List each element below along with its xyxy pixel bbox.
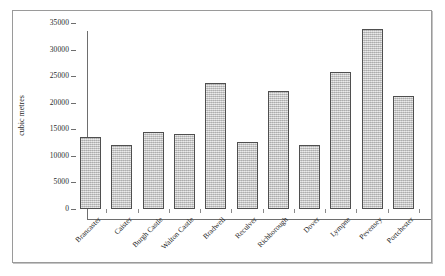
bar-richborough xyxy=(268,91,289,209)
x-axis-tick xyxy=(169,209,170,213)
bar-pevensey xyxy=(362,29,383,209)
bar-portchester xyxy=(393,96,414,209)
x-axis-tick xyxy=(325,209,326,213)
y-axis-tick-label: 15000 xyxy=(25,125,69,133)
x-axis-tick xyxy=(263,209,264,213)
bar-walton-castle xyxy=(174,134,195,209)
x-axis-label: Dover xyxy=(301,215,321,235)
y-axis-tick xyxy=(71,129,76,130)
y-axis-tick xyxy=(71,50,76,51)
y-axis-tick-label: 30000 xyxy=(25,46,69,54)
y-axis-tick-label: 10000 xyxy=(25,152,69,160)
bar-dover xyxy=(299,145,320,209)
y-axis-tick-label-wrap: 20000 xyxy=(23,99,69,107)
figure-frame: cubic metres 350003000025000200001500010… xyxy=(12,10,432,263)
y-axis-tick-label-wrap: 15000 xyxy=(23,125,69,133)
x-axis-label: Walton Castle xyxy=(160,215,196,251)
y-axis-tick xyxy=(71,156,76,157)
x-axis-tick xyxy=(356,209,357,213)
x-axis-tick xyxy=(106,209,107,213)
y-axis-title: cubic metres xyxy=(17,76,26,156)
y-axis-tick-label-wrap: 35000 xyxy=(23,19,69,27)
y-axis-tick-label: 35000 xyxy=(25,19,69,27)
x-axis-tick xyxy=(138,209,139,213)
bar-caister xyxy=(111,145,132,209)
y-axis-tick-label-wrap: 0 xyxy=(23,205,69,213)
y-axis-tick xyxy=(71,209,76,210)
y-axis-tick xyxy=(71,103,76,104)
x-axis-tick xyxy=(388,209,389,213)
y-axis-tick-label-wrap: 30000 xyxy=(23,46,69,54)
bar-reculver xyxy=(237,142,258,209)
y-axis-tick xyxy=(71,182,76,183)
y-axis-tick-label: 0 xyxy=(25,205,69,213)
bar-burgh-castle xyxy=(143,132,164,209)
y-axis-tick-label-wrap: 5000 xyxy=(23,178,69,186)
x-axis-tick xyxy=(200,209,201,213)
y-axis-tick xyxy=(71,76,76,77)
y-axis-tick-label: 20000 xyxy=(25,99,69,107)
y-axis-tick-label-wrap: 10000 xyxy=(23,152,69,160)
y-axis-tick-label: 5000 xyxy=(25,178,69,186)
bar-chart-figure: cubic metres 350003000025000200001500010… xyxy=(0,0,445,276)
x-axis-label: Richborough xyxy=(256,215,290,249)
bar-brancaster xyxy=(80,137,101,209)
bar-lympne xyxy=(330,72,351,209)
y-axis-tick-label: 25000 xyxy=(25,72,69,80)
y-axis-tick xyxy=(71,23,76,24)
x-axis-tick xyxy=(419,209,420,213)
x-axis-tick xyxy=(294,209,295,213)
bar-bradwell xyxy=(205,83,226,209)
x-axis-tick xyxy=(231,209,232,213)
y-axis-tick-label-wrap: 25000 xyxy=(23,72,69,80)
